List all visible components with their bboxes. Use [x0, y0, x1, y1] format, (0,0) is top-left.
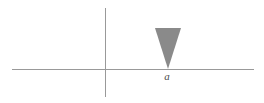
math-diagram-figure: a	[0, 0, 264, 103]
diagram-canvas: a	[0, 0, 264, 103]
point-label-a: a	[164, 70, 170, 82]
shaded-triangle	[155, 28, 181, 69]
